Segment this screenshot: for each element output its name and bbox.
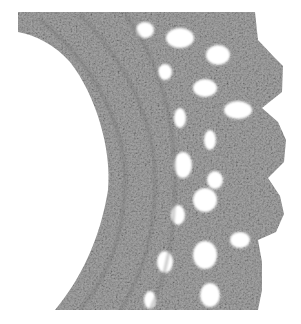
lace-photo bbox=[0, 0, 301, 324]
